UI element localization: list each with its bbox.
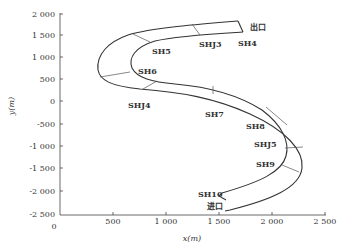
entrance-label: 进口 xyxy=(207,201,223,211)
section-label-SH4: SH4 xyxy=(238,38,257,48)
y-tick-label: -500 xyxy=(37,120,55,129)
divider-SHJ4 xyxy=(143,81,157,89)
x-tick-label: 0 xyxy=(51,222,56,231)
y-axis-title: y(m) xyxy=(7,97,16,116)
y-tick-label: 0 xyxy=(50,97,55,106)
section-label-SHJ5: SHJ5 xyxy=(254,139,277,149)
section-label-SH5: SH5 xyxy=(152,46,171,56)
section-label-SH7: SH7 xyxy=(205,109,224,119)
divider-SHJ5 xyxy=(285,147,303,148)
river-plan-diagram: 2 000 1 500 1 000 500 0 -500 -1 000 -1 5… xyxy=(0,0,339,249)
y-tick-label: -2 500 xyxy=(29,210,55,219)
y-tick-label: 500 xyxy=(40,75,55,84)
x-tick-label: 1 500 xyxy=(208,217,231,226)
divider-SH6 xyxy=(100,72,130,77)
x-tick-label: 2 000 xyxy=(261,217,284,226)
y-tick-label: 1 500 xyxy=(32,31,55,40)
x-axis-title: x(m) xyxy=(183,234,201,243)
section-label-SHJ3: SHJ3 xyxy=(199,39,222,49)
section-label-SH6: SH6 xyxy=(138,66,157,76)
x-tick-label: 1 000 xyxy=(155,217,178,226)
y-tick-label: -1 500 xyxy=(29,164,55,173)
section-label-SH10: SH10 xyxy=(198,189,223,199)
x-tick-label: 500 xyxy=(105,217,120,226)
section-label-SHJ4: SHJ4 xyxy=(128,100,151,110)
x-tick-labels: 0 500 1 000 1 500 2 000 2 500 xyxy=(51,217,336,231)
x-ticks xyxy=(113,212,325,215)
y-tick-labels: 2 000 1 500 1 000 500 0 -500 -1 000 -1 5… xyxy=(29,10,55,219)
exit-cap xyxy=(238,21,243,32)
x-tick-label: 2 500 xyxy=(314,217,337,226)
y-tick-label: 1 000 xyxy=(32,53,55,62)
y-tick-label: -1 000 xyxy=(29,142,55,151)
exit-label: 出口 xyxy=(250,22,266,32)
section-label-SH9: SH9 xyxy=(256,159,275,169)
y-ticks xyxy=(60,14,63,191)
divider-SH9 xyxy=(282,165,299,172)
section-label-SH8: SH8 xyxy=(246,121,265,131)
outer-bank-curve xyxy=(98,21,302,211)
divider-SH5 xyxy=(133,34,150,42)
divider-SHJ3 xyxy=(192,24,200,35)
y-tick-label: -2 000 xyxy=(29,187,55,196)
y-tick-label: 2 000 xyxy=(32,10,55,19)
